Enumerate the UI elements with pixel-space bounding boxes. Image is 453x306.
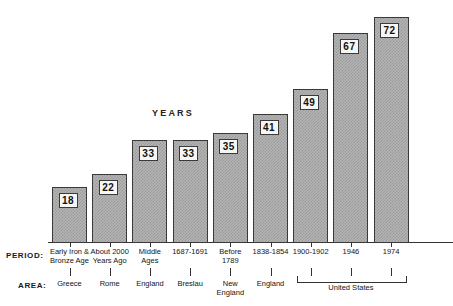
group-label-1: United States	[297, 283, 405, 292]
connector-tick-4	[190, 268, 191, 276]
connector-tick-3	[150, 268, 151, 276]
group-connector-tick-7	[311, 268, 312, 276]
connector-tick-5	[230, 268, 231, 276]
connector-tick-6	[271, 268, 272, 276]
bar-value-4: 33	[179, 146, 198, 161]
bar-value-3: 33	[139, 146, 158, 161]
bar-value-7: 49	[300, 95, 319, 110]
bar-chart: YEARS 182233333541496772 PERIOD: AREA: E…	[0, 0, 453, 306]
bar-value-8: 67	[340, 39, 359, 54]
connector-tick-1	[70, 268, 71, 276]
plot-area: 182233333541496772	[0, 0, 453, 243]
area-label-6: England	[239, 280, 303, 289]
bar-value-6: 41	[260, 120, 279, 135]
group-connector-tick-8	[351, 268, 352, 276]
bar-value-1: 18	[59, 193, 78, 208]
group-connector-tick-9	[391, 268, 392, 276]
bar-9	[374, 17, 409, 243]
group-bracket-1	[297, 276, 407, 283]
period-label-9: 1974	[359, 248, 423, 257]
bar-value-5: 35	[219, 139, 238, 154]
bar-8	[333, 33, 368, 243]
connector-tick-2	[110, 268, 111, 276]
bar-value-2: 22	[99, 180, 118, 195]
bar-value-9: 72	[380, 23, 399, 38]
bar-7	[293, 89, 328, 243]
